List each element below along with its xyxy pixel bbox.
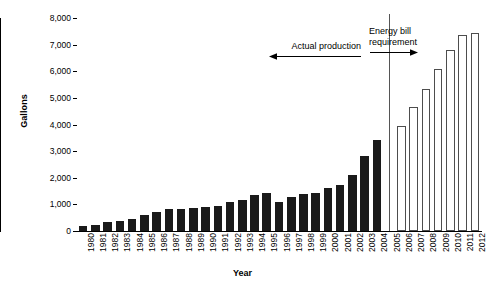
arrow-right-icon [370,48,418,57]
x-axis-tick-label-1982: 1982 [111,233,120,252]
y-axis-tick-label: 0 [66,227,71,236]
x-axis-tick-label-1981: 1981 [99,233,108,252]
bar-1993 [238,200,247,231]
y-axis-tick-label: 4,000 [50,120,71,129]
bar-1985 [140,215,149,231]
x-axis-tick-label-1986: 1986 [160,233,169,252]
bar-1991 [214,206,223,231]
x-axis-tick-label-1983: 1983 [123,233,132,252]
x-axis-tick-label-2003: 2003 [368,233,377,252]
bar-2012 [471,33,480,231]
bar-1982 [103,222,112,231]
bar-1998 [299,194,308,231]
bar-1995 [262,193,271,231]
x-axis-line [77,231,482,232]
bar-1989 [189,208,198,231]
x-axis-tick-label-2008: 2008 [429,233,438,252]
bar-2007 [409,107,418,231]
x-axis-tick-label-1992: 1992 [234,233,243,252]
bar-2003 [360,156,369,231]
y-axis-tick-label: 1,000 [50,200,71,209]
x-axis-tick-label-1987: 1987 [172,233,181,252]
x-axis-tick-label-1995: 1995 [270,233,279,252]
y-axis-tick-label: 5,000 [50,94,71,103]
y-axis-tick-label: 2,000 [50,174,71,183]
bar-2008 [422,89,431,231]
x-axis-title: Year [0,268,485,278]
bar-1997 [287,197,296,231]
x-axis-tick-label-1993: 1993 [246,233,255,252]
y-axis-tick-label: 3,000 [50,147,71,156]
x-axis-tick-label-1988: 1988 [185,233,194,252]
annotation-energy-bill-line1: Energy bill [369,26,411,36]
x-axis-tick-label-1991: 1991 [221,233,230,252]
x-axis-tick-label-1994: 1994 [258,233,267,252]
y-axis-tick [73,231,77,232]
annotation-energy-bill-line2: requirement [369,37,417,47]
annotation-energy-bill-requirement: Energy bill requirement [369,26,435,47]
bar-1994 [250,195,259,231]
y-axis-tick-label: 6,000 [50,67,71,76]
x-axis-tick-label-2012: 2012 [478,233,487,252]
x-axis-tick-label-2001: 2001 [344,233,353,252]
y-axis-tick-label: 8,000 [50,14,71,23]
bar-2002 [348,175,357,231]
x-axis-tick-label-2009: 2009 [442,233,451,252]
bar-1983 [116,221,125,231]
x-axis-tick-label-2006: 2006 [405,233,414,252]
x-axis-tick-label-1990: 1990 [209,233,218,252]
bar-2001 [336,185,345,231]
x-axis-tick-label-2000: 2000 [331,233,340,252]
annotation-actual-production: Actual production [263,41,361,52]
x-axis-tick-label-2005: 2005 [393,233,402,252]
bar-1999 [311,193,320,231]
x-axis-tick-label-1989: 1989 [197,233,206,252]
bar-2006 [397,126,406,231]
x-axis-tick-label-1980: 1980 [87,233,96,252]
x-axis-tick-label-1985: 1985 [148,233,157,252]
x-axis-tick-label-2004: 2004 [380,233,389,252]
bar-2010 [446,50,455,231]
bar-2000 [324,188,333,231]
bar-1986 [152,212,161,231]
x-axis-tick-label-1984: 1984 [136,233,145,252]
y-axis-tick-label: 7,000 [50,40,71,49]
bar-1992 [226,202,235,231]
x-tick-labels: 1980198119821983198419851986198719881989… [77,233,481,267]
bar-1996 [275,202,284,231]
arrow-left-icon [269,52,361,61]
bar-1988 [177,209,186,231]
y-axis-line [0,18,1,232]
bar-2011 [458,35,467,231]
x-axis-tick-label-2007: 2007 [417,233,426,252]
bar-1981 [91,225,100,231]
bar-1980 [79,226,88,231]
x-axis-tick-label-2010: 2010 [454,233,463,252]
bar-2004 [373,140,382,231]
x-axis-tick-label-2002: 2002 [356,233,365,252]
bar-1990 [201,207,210,231]
x-axis-tick-label-2011: 2011 [466,233,475,251]
bar-2009 [434,69,443,231]
annotation-actual-production-label: Actual production [291,41,361,51]
bar-1987 [165,209,174,231]
x-axis-tick-label-1996: 1996 [283,233,292,252]
x-axis-tick-label-1998: 1998 [307,233,316,252]
bar-1984 [128,219,137,231]
x-axis-tick-label-1997: 1997 [295,233,304,252]
y-axis-title: Gallons [19,81,29,141]
x-axis-tick-label-1999: 1999 [319,233,328,252]
